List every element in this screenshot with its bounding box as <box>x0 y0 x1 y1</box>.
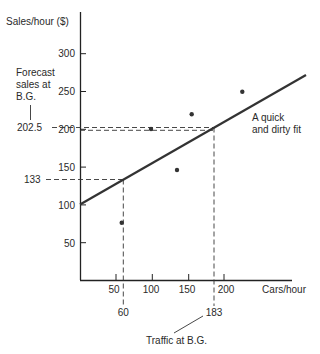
svg-text:150: 150 <box>179 284 196 295</box>
forecast-label-3: B.G. <box>16 91 36 102</box>
y-tick-labels: 50 100 150 200 250 300 <box>58 48 75 249</box>
traffic-low-value: 60 <box>118 307 130 318</box>
data-point <box>149 127 153 131</box>
data-point <box>190 112 194 116</box>
svg-text:300: 300 <box>58 48 75 59</box>
traffic-label: Traffic at B.G. <box>146 335 207 346</box>
svg-text:50: 50 <box>64 238 76 249</box>
svg-text:100: 100 <box>143 284 160 295</box>
svg-text:100: 100 <box>58 200 75 211</box>
fit-label-line1: A quick <box>252 112 285 123</box>
traffic-leader <box>174 316 203 333</box>
fit-line <box>80 75 306 205</box>
data-point <box>175 168 179 172</box>
x-ticks <box>116 274 224 280</box>
svg-text:200: 200 <box>218 284 235 295</box>
x-axis-label: Cars/hour <box>262 284 307 295</box>
fit-label-line2: and dirty fit <box>252 124 301 135</box>
forecast-label-1: Forecast <box>16 67 55 78</box>
traffic-value: 183 <box>206 307 223 318</box>
forecast-value: 202.5 <box>17 122 42 133</box>
y-axis-label: Sales/hour ($) <box>6 16 69 27</box>
data-point <box>240 90 244 94</box>
svg-text:200: 200 <box>58 124 75 135</box>
data-points <box>120 90 245 225</box>
forecast-label-2: sales at <box>16 79 51 90</box>
x-tick-labels: 50 100 150 200 <box>108 284 234 295</box>
svg-text:50: 50 <box>108 284 120 295</box>
low-sales-value: 133 <box>24 174 41 185</box>
data-point <box>120 221 124 225</box>
scatter-chart: 50 100 150 200 250 300 50 100 150 200 Sa… <box>0 0 320 354</box>
svg-text:150: 150 <box>58 162 75 173</box>
svg-text:250: 250 <box>58 86 75 97</box>
